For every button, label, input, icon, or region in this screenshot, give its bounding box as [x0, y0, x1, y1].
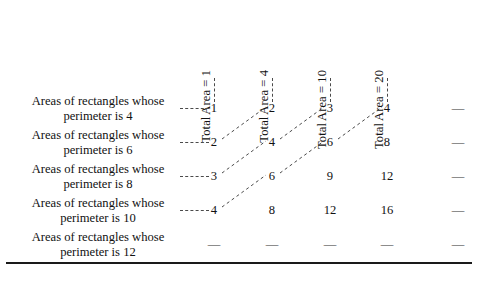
row-label-perimeter-4: Areas of rectangles whose perimeter is 4	[18, 94, 178, 123]
cell-r1c4: 4	[372, 101, 402, 115]
cell-r3c3: 9	[315, 169, 345, 183]
cell-r3c5: —	[443, 169, 473, 183]
cell-r3c4: 12	[372, 169, 402, 183]
cell-r4c1: 4	[199, 203, 229, 217]
row-label-perimeter-6-line1: Areas of rectangles whose	[32, 128, 165, 142]
row-label-perimeter-6: Areas of rectangles whose perimeter is 6	[18, 128, 178, 157]
row-label-perimeter-12: Areas of rectangles whose perimeter is 1…	[18, 230, 178, 259]
header-stem-3	[330, 78, 331, 102]
cell-r1c2: 2	[257, 101, 287, 115]
header-stem-4	[387, 78, 388, 102]
cell-r4c4: 16	[372, 203, 402, 217]
header-stem-1	[214, 78, 215, 102]
row-label-perimeter-8-line1: Areas of rectangles whose	[32, 162, 165, 176]
cell-r5c5: —	[443, 237, 473, 251]
cell-r1c1: 1	[199, 101, 229, 115]
cell-r5c2: —	[257, 237, 287, 251]
cell-r3c2: 6	[257, 169, 287, 183]
row-label-perimeter-6-line2: perimeter is 6	[18, 143, 178, 158]
areas-of-rectangles-figure: Total Area = 1 Total Area = 4 Total Area…	[0, 0, 486, 284]
column-header-4: Total Area = 20	[371, 12, 405, 104]
row-label-perimeter-4-line1: Areas of rectangles whose	[32, 94, 165, 108]
column-header-2: Total Area = 4	[256, 12, 290, 104]
cell-r5c3: —	[315, 237, 345, 251]
row-label-perimeter-8: Areas of rectangles whose perimeter is 8	[18, 162, 178, 191]
column-header-1: Total Area = 1	[198, 12, 232, 104]
cell-r2c3: 6	[315, 135, 345, 149]
row-label-perimeter-10-line1: Areas of rectangles whose	[32, 196, 165, 210]
cell-r5c4: —	[372, 237, 402, 251]
header-stem-2	[272, 78, 273, 102]
row-label-perimeter-12-line1: Areas of rectangles whose	[32, 230, 165, 244]
cell-r2c5: —	[443, 135, 473, 149]
cell-r5c1: —	[199, 237, 229, 251]
row-label-perimeter-12-line2: perimeter is 12	[18, 245, 178, 260]
cell-r2c4: 8	[372, 135, 402, 149]
row-label-perimeter-10: Areas of rectangles whose perimeter is 1…	[18, 196, 178, 225]
cell-r2c2: 4	[257, 135, 287, 149]
row-label-perimeter-4-line2: perimeter is 4	[18, 109, 178, 124]
row-label-perimeter-8-line2: perimeter is 8	[18, 177, 178, 192]
cell-r1c5: —	[443, 101, 473, 115]
bottom-rule	[6, 262, 472, 264]
cell-r4c5: —	[443, 203, 473, 217]
cell-r1c3: 3	[315, 101, 345, 115]
cell-r4c3: 12	[315, 203, 345, 217]
cell-r2c1: 2	[199, 135, 229, 149]
row-label-perimeter-10-line2: perimeter is 10	[18, 211, 178, 226]
cell-r4c2: 8	[257, 203, 287, 217]
cell-r3c1: 3	[199, 169, 229, 183]
column-header-3: Total Area = 10	[314, 12, 348, 104]
